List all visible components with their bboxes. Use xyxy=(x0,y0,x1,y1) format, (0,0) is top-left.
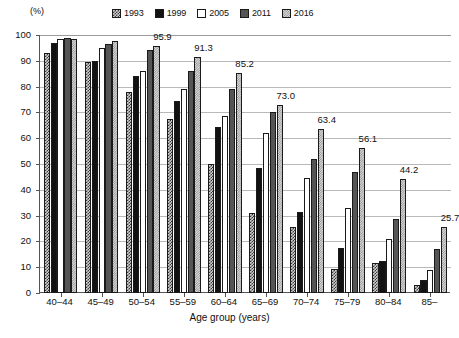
bar-group-85–: 25.7 xyxy=(410,35,451,293)
bar-2005-80–84[interactable] xyxy=(386,239,392,293)
y-axis-tick-label: 20 xyxy=(1,235,31,246)
bar-2011-50–54[interactable] xyxy=(147,50,153,293)
bar-2016-55–59[interactable]: 91.3 xyxy=(194,57,200,293)
y-axis-tick-label: 100 xyxy=(1,29,31,40)
x-axis-label-70–74: 70–74 xyxy=(286,296,327,310)
bar-1999-70–74[interactable] xyxy=(297,212,303,293)
bar-1999-60–64[interactable] xyxy=(215,127,221,293)
legend-item-1993[interactable]: 1993 xyxy=(112,8,144,18)
bar-2011-55–59[interactable] xyxy=(188,71,194,293)
legend-swatch-1999-icon xyxy=(155,9,164,18)
bar-2005-50–54[interactable] xyxy=(140,71,146,293)
legend-label: 2005 xyxy=(209,8,229,18)
x-axis-label-60–64: 60–64 xyxy=(203,296,244,310)
bar-2011-80–84[interactable] xyxy=(393,219,399,293)
bar-2016-80–84[interactable]: 44.2 xyxy=(400,179,406,293)
bar-group-60–64: 85.2 xyxy=(204,35,245,293)
legend-swatch-2005-icon xyxy=(197,9,206,18)
plot-area: 1009080706050403020100 95.991.385.273.06… xyxy=(39,35,450,293)
x-axis-label-40–44: 40–44 xyxy=(39,296,80,310)
bar-1999-40–44[interactable] xyxy=(51,43,57,293)
y-axis-tick-label: 60 xyxy=(1,132,31,143)
bar-2016-40–44[interactable] xyxy=(71,39,77,293)
bar-1999-75–79[interactable] xyxy=(338,248,344,293)
bar-2016-75–79[interactable]: 56.1 xyxy=(359,148,365,293)
bar-1999-50–54[interactable] xyxy=(133,76,139,293)
x-axis-title: Age group (years) xyxy=(0,312,459,323)
legend-item-1999[interactable]: 1999 xyxy=(155,8,187,18)
legend-item-2016[interactable]: 2016 xyxy=(282,8,314,18)
bar-1993-65–69[interactable] xyxy=(249,213,255,293)
bar-2016-85–[interactable]: 25.7 xyxy=(441,227,447,293)
legend-item-2005[interactable]: 2005 xyxy=(197,8,229,18)
bar-2016-65–69[interactable]: 73.0 xyxy=(277,105,283,293)
bar-1993-60–64[interactable] xyxy=(208,164,214,293)
bar-group-80–84: 44.2 xyxy=(369,35,410,293)
y-axis-tick-label: 50 xyxy=(1,158,31,169)
bar-2005-70–74[interactable] xyxy=(304,178,310,293)
bar-1993-40–44[interactable] xyxy=(44,53,50,293)
legend-swatch-1993-icon xyxy=(112,9,121,18)
bar-2011-40–44[interactable] xyxy=(64,38,70,293)
bar-1999-85–[interactable] xyxy=(420,280,426,293)
legend-item-2011[interactable]: 2011 xyxy=(240,8,271,18)
y-axis-tick-label: 90 xyxy=(1,55,31,66)
bar-2005-60–64[interactable] xyxy=(222,116,228,293)
bar-2016-50–54[interactable]: 95.9 xyxy=(153,46,159,293)
bar-2005-65–69[interactable] xyxy=(263,133,269,293)
y-axis-tick-label: 40 xyxy=(1,184,31,195)
bar-1993-85–[interactable] xyxy=(414,285,420,293)
bar-group-70–74: 63.4 xyxy=(287,35,328,293)
y-axis-tick xyxy=(36,293,40,294)
bar-2011-70–74[interactable] xyxy=(311,159,317,293)
bar-2016-60–64[interactable]: 85.2 xyxy=(236,73,242,293)
legend-swatch-2011-icon xyxy=(240,9,249,18)
legend-swatch-2016-icon xyxy=(282,9,291,18)
legend-label: 1993 xyxy=(124,8,144,18)
x-axis-label-75–79: 75–79 xyxy=(327,296,368,310)
bar-2005-85–[interactable] xyxy=(427,270,433,293)
bar-1993-55–59[interactable] xyxy=(167,119,173,293)
x-axis-label-65–69: 65–69 xyxy=(244,296,285,310)
bar-chart: (%) 19931999200520112016 100908070605040… xyxy=(0,0,459,338)
y-axis-tick-label: 70 xyxy=(1,106,31,117)
bar-2005-75–79[interactable] xyxy=(345,208,351,293)
bar-1993-45–49[interactable] xyxy=(85,62,91,293)
bar-2011-85–[interactable] xyxy=(434,249,440,293)
bar-2016-70–74[interactable]: 63.4 xyxy=(318,129,324,293)
bar-group-75–79: 56.1 xyxy=(328,35,369,293)
x-axis-label-50–54: 50–54 xyxy=(121,296,162,310)
bar-2005-55–59[interactable] xyxy=(181,89,187,293)
bar-group-40–44 xyxy=(40,35,81,293)
bar-1993-80–84[interactable] xyxy=(372,263,378,293)
x-axis-tick-labels: 40–4445–4950–5455–5960–6465–6970–7475–79… xyxy=(39,296,450,310)
bar-2016-45–49[interactable] xyxy=(112,41,118,293)
bar-2011-75–79[interactable] xyxy=(352,172,358,293)
bar-1999-65–69[interactable] xyxy=(256,168,262,293)
y-axis-tick-label: 10 xyxy=(1,261,31,272)
bar-1999-80–84[interactable] xyxy=(379,261,385,293)
legend-label: 2016 xyxy=(294,8,314,18)
bar-group-55–59: 91.3 xyxy=(163,35,204,293)
legend-label: 1999 xyxy=(167,8,187,18)
bar-2005-40–44[interactable] xyxy=(57,39,63,293)
bar-1999-55–59[interactable] xyxy=(174,101,180,293)
bar-2011-60–64[interactable] xyxy=(229,89,235,293)
y-axis-tick-label: 30 xyxy=(1,210,31,221)
y-axis-unit-label: (%) xyxy=(30,6,44,16)
bar-1993-70–74[interactable] xyxy=(290,227,296,293)
bar-1999-45–49[interactable] xyxy=(92,61,98,293)
x-axis-label-85–: 85– xyxy=(409,296,450,310)
bar-2011-65–69[interactable] xyxy=(270,112,276,293)
legend-label: 2011 xyxy=(252,8,271,18)
x-axis-label-80–84: 80–84 xyxy=(368,296,409,310)
bar-2011-45–49[interactable] xyxy=(105,44,111,293)
bar-group-65–69: 73.0 xyxy=(245,35,286,293)
bar-value-label-85–: 25.7 xyxy=(441,212,459,223)
y-axis-tick-label: 80 xyxy=(1,81,31,92)
bar-2005-45–49[interactable] xyxy=(99,48,105,293)
bar-group-50–54: 95.9 xyxy=(122,35,163,293)
y-axis-tick-label: 0 xyxy=(1,287,31,298)
bar-1993-50–54[interactable] xyxy=(126,92,132,293)
bar-1993-75–79[interactable] xyxy=(331,269,337,294)
